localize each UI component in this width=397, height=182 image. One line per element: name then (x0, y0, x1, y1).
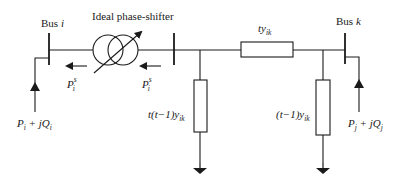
bus-k-label: Bus k (336, 15, 362, 27)
phase-shifter-label: Ideal phase-shifter (92, 10, 174, 22)
series-admittance-label: tyik (258, 22, 272, 37)
injection-i-arrow-icon (30, 82, 40, 91)
arrowheads (30, 79, 364, 174)
shunt-right-label: (t−1)yik (276, 108, 310, 123)
shunt-left-box (194, 80, 207, 132)
injection-i-label: Pi + jQi (16, 117, 52, 132)
flow-label-right: Psi (141, 75, 152, 93)
shunt-left-label: t(t−1)yik (148, 108, 185, 123)
bus-i-label: Bus i (41, 17, 64, 29)
injection-i-wire (35, 58, 49, 112)
phase-shifter-diagram: Bus i Ideal phase-shifter tyik Bus k Psi… (0, 0, 397, 182)
injection-k-label: Pj + jQj (347, 117, 383, 132)
shunt-right-box (316, 80, 330, 135)
series-admittance-box (241, 42, 293, 57)
injection-k-arrow-icon (354, 79, 364, 88)
flow-label-left: Psi (66, 75, 77, 93)
